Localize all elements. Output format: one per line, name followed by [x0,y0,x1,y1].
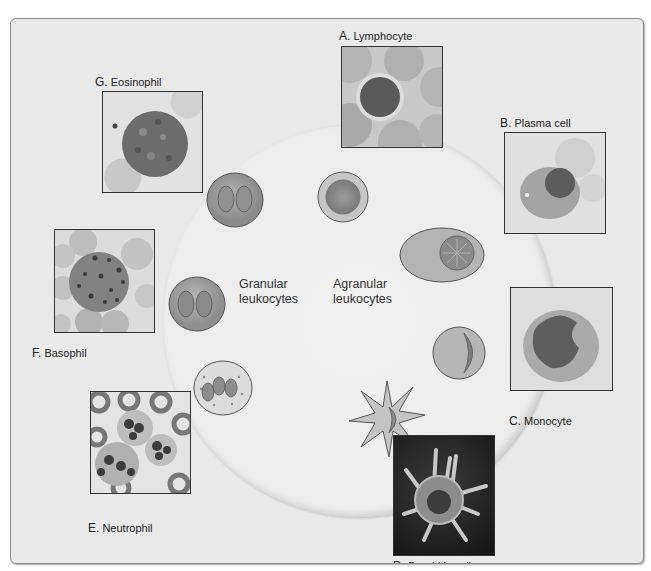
label-monocyte: C. Monocyte [509,414,572,428]
eosinophil-illustration [204,169,266,231]
lymphocyte-photo [341,46,443,148]
monocyte-photo [510,287,613,391]
granular-leukocytes-label: Granular leukocytes [239,277,298,307]
label-letter: G. [95,75,108,89]
label-eosinophil: G. Eosinophil [95,75,162,89]
lymphocyte-illustration [316,170,371,225]
label-lymphocyte: A. Lymphocyte [339,29,412,43]
label-letter: C. [509,414,521,428]
neutrophil-illustration [192,359,254,417]
diagram-frame: Granular leukocytes Agranular leukocytes [10,18,644,564]
label-name: Eosinophil [111,76,162,88]
label-name: Plasma cell [514,117,570,129]
label-letter: B. [500,116,511,130]
neutrophil-photo [90,391,191,494]
label-name: Lymphocyte [353,30,412,42]
eosinophil-photo [102,91,203,193]
granular-line-2: leukocytes [239,292,298,307]
label-letter: E. [88,521,99,535]
label-name: Dendritic cell [408,560,471,564]
agranular-line-1: Agranular [333,277,392,292]
label-name: Basophil [44,347,86,359]
monocyte-illustration [431,325,489,381]
plasma-cell-photo [504,132,606,234]
label-letter: D. [393,559,405,564]
label-neutrophil: E. Neutrophil [88,521,153,535]
label-letter: A. [339,29,350,43]
dendritic-cell-photo [393,435,495,556]
basophil-illustration [166,274,228,334]
agranular-leukocytes-label: Agranular leukocytes [333,277,392,307]
label-dendritic-cell: D. Dendritic cell [393,559,471,564]
label-name: Neutrophil [102,522,152,534]
agranular-line-2: leukocytes [333,292,392,307]
basophil-photo [54,229,155,333]
label-name: Monocyte [524,415,572,427]
plasma-cell-illustration [398,226,488,284]
label-plasma-cell: B. Plasma cell [500,116,571,130]
granular-line-1: Granular [239,277,298,292]
label-basophil: F. Basophil [32,346,87,360]
label-letter: F. [32,346,41,360]
